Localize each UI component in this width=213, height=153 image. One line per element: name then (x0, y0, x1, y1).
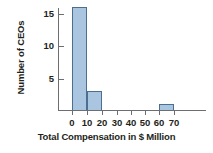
x-tick-mark-10 (87, 111, 88, 115)
x-axis-line (58, 110, 206, 111)
x-tick-mark-20 (102, 111, 103, 115)
bar-bin-10-20 (87, 91, 102, 111)
x-axis-title: Total Compensation in $ Million (0, 131, 213, 142)
bar-bin-0-10 (72, 7, 87, 111)
histogram-chart: Number of CEOs 15 10 5 0 10 20 30 40 50 … (0, 0, 213, 153)
x-tick-mark-50 (145, 111, 146, 115)
x-tick-label-70: 70 (164, 117, 184, 128)
x-tick-mark-30 (117, 111, 118, 115)
x-tick-mark-70 (174, 111, 175, 115)
x-tick-mark-40 (131, 111, 132, 115)
x-tick-mark-60 (159, 111, 160, 115)
x-tick-mark-0 (72, 111, 73, 115)
